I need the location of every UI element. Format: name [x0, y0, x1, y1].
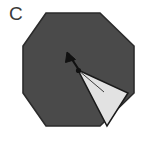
panel-label: C [9, 4, 23, 23]
apex-vertex-dot [76, 68, 81, 73]
figure-panel: C [0, 0, 145, 144]
